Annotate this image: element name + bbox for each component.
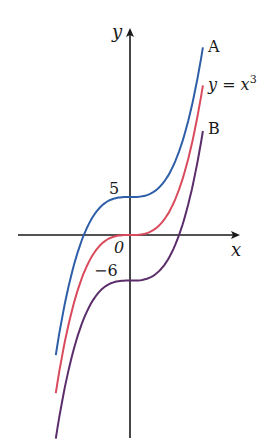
intercept-label-minus-6: −6 [94, 261, 118, 280]
curve-label-a: A [207, 37, 220, 56]
curve-label-b: B [208, 119, 220, 138]
origin-label: 0 [114, 238, 124, 257]
graph-canvas: y x 0 5 −6 A y = x3 B [0, 0, 275, 446]
equation-text: y = x [207, 75, 250, 94]
x-axis-label: x [231, 239, 241, 260]
y-axis-label: y [111, 21, 123, 42]
equation-exponent: 3 [250, 73, 257, 86]
intercept-label-5: 5 [109, 179, 119, 198]
curve-label-y-equals-x-cubed: y = x3 [207, 73, 257, 94]
